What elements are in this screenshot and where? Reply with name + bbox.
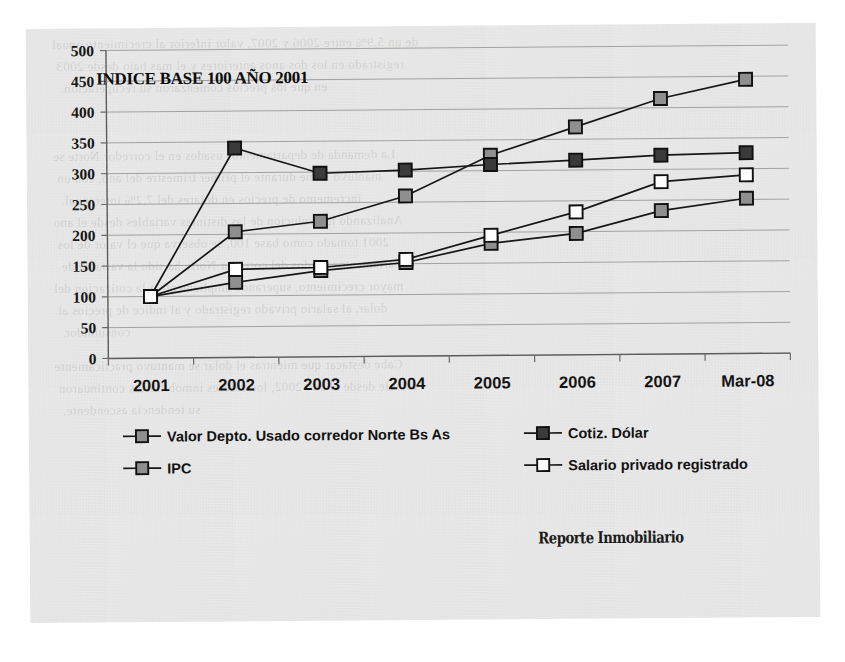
gridline-horizontal (107, 230, 789, 235)
data-point-marker (739, 73, 752, 86)
data-point-marker (740, 192, 753, 205)
chart-legend: Valor Depto. Usado corredor Norte Bs AsC… (123, 424, 748, 477)
chart-container: 050100150200250300350400450500 200120022… (34, 31, 812, 593)
line-chart: 050100150200250300350400450500 200120022… (34, 31, 812, 593)
x-axis-tick-label: 2005 (474, 373, 511, 391)
gridline-horizontal (108, 322, 790, 327)
legend-label: Cotiz. Dólar (568, 425, 649, 442)
data-point-marker (229, 276, 242, 289)
data-point-marker (655, 175, 668, 188)
gridline-horizontal (108, 261, 790, 266)
legend-label: IPC (167, 460, 192, 476)
data-point-marker (228, 141, 241, 154)
x-axis-tick-label: 2001 (133, 376, 170, 394)
data-point-marker (314, 215, 327, 228)
y-axis-tick-label: 0 (89, 350, 97, 367)
data-point-marker (654, 92, 667, 105)
y-axis-tick-label: 450 (71, 73, 95, 90)
x-axis-tick-label: 2004 (389, 374, 427, 392)
legend-marker-square (537, 427, 549, 439)
data-point-marker (313, 167, 326, 180)
data-point-marker (144, 290, 157, 303)
data-point-marker (399, 189, 412, 202)
x-axis-tick-label: 2007 (644, 372, 681, 390)
data-point-marker (570, 205, 583, 218)
data-point-marker (740, 146, 753, 159)
data-point-marker (569, 154, 582, 167)
y-axis-tick-labels: 050100150200250300350400450500 (71, 42, 97, 367)
gridline-horizontal (106, 45, 788, 50)
y-axis-tick-label: 500 (71, 42, 95, 59)
legend-label: Salario privado registrado (568, 456, 748, 473)
data-point-marker (399, 164, 412, 177)
data-point-marker (654, 149, 667, 162)
bleed-through-text-layer: de un 5,9% entre 2006 y 2007, valor infe… (26, 23, 816, 29)
gridline-horizontal (107, 138, 789, 143)
chart-title: INDICE BASE 100 AÑO 2001 (96, 68, 308, 89)
y-axis-tick-label: 400 (71, 104, 95, 121)
watermark-label: Reporte Inmobiliario (538, 527, 683, 547)
data-point-marker (569, 120, 582, 133)
scanned-page: de un 5,9% entre 2006 y 2007, valor infe… (0, 0, 845, 662)
legend-marker-square (537, 459, 549, 471)
data-point-marker (314, 261, 327, 274)
x-axis-tick-labels: 2001200220032004200520062007Mar-08 (133, 371, 775, 394)
y-axis-tick-label: 150 (72, 258, 96, 275)
gridline-horizontal (108, 292, 790, 297)
data-point-marker (655, 204, 668, 217)
reporte-inmobiliario-watermark: Reporte Inmobiliario (538, 527, 683, 547)
legend-label: Valor Depto. Usado corredor Norte Bs As (167, 426, 450, 444)
gridline-horizontal (106, 107, 788, 112)
data-point-marker (399, 253, 412, 266)
data-point-marker (570, 227, 583, 240)
legend-marker-square (136, 462, 148, 474)
data-point-marker (484, 229, 497, 242)
x-axis-tick-label: 2002 (218, 375, 255, 393)
x-axis-tick-label: 2006 (559, 373, 596, 391)
data-point-marker (484, 158, 497, 171)
legend-marker-square (136, 430, 148, 442)
y-axis-tick-label: 50 (81, 319, 97, 336)
y-axis-tick-label: 100 (73, 288, 97, 305)
data-point-marker (229, 225, 242, 238)
gridline-horizontal (107, 168, 789, 173)
data-point-marker (740, 168, 753, 181)
y-axis-tick-label: 350 (71, 134, 95, 151)
x-axis-tick-label: 2003 (303, 375, 340, 393)
y-axis-tick-label: 200 (72, 227, 96, 244)
gridline-horizontal (107, 199, 789, 204)
x-axis-tick-label: Mar-08 (721, 371, 774, 389)
data-point-marker (229, 263, 242, 276)
y-axis-tick-label: 250 (72, 196, 96, 213)
y-axis-tick-label: 300 (72, 165, 96, 182)
